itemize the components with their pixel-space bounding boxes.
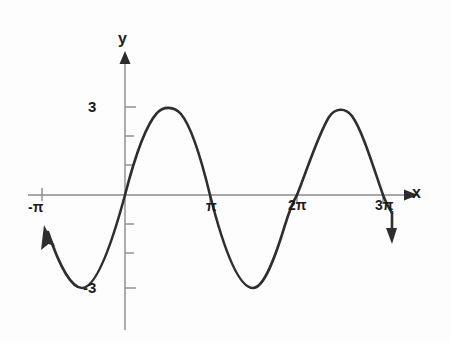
x-tick-label-2pi: 2π xyxy=(288,197,307,213)
x-tick-label-3pi: 3π xyxy=(375,197,394,213)
x-tick-label-pi: π xyxy=(206,198,217,214)
y-tick-label-3: 3 xyxy=(88,98,96,115)
graph-canvas xyxy=(0,0,451,343)
y-tick-label-neg3: -3 xyxy=(83,279,96,296)
x-tick-label-neg-pi: -π xyxy=(28,199,43,215)
y-axis-arrow-icon xyxy=(120,51,131,64)
sine-curve-figure: y x 3 -3 -π π 2π 3π xyxy=(0,0,451,343)
x-axis-label: x xyxy=(412,184,421,202)
sine-curve-path xyxy=(48,108,392,288)
y-axis-label: y xyxy=(118,30,127,48)
